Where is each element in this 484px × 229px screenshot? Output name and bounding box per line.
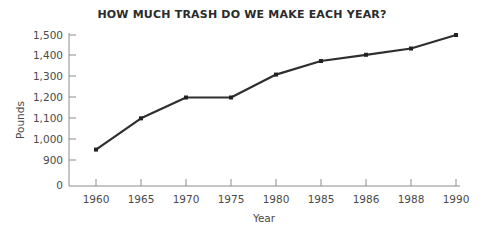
x-axis-title: Year — [252, 212, 276, 224]
y-tick-label-1500: 1,500 — [33, 29, 63, 41]
y-tick-label-900: 900 — [43, 154, 63, 166]
data-point-1980 — [274, 73, 278, 77]
y-axis-title: Pounds — [14, 101, 26, 139]
x-tick-label-1960: 1960 — [83, 193, 110, 205]
series-markers — [94, 33, 458, 152]
y-tick-label-1400: 1,400 — [33, 49, 63, 61]
y-tick-label-1300: 1,300 — [33, 70, 63, 82]
series-line-path — [96, 35, 456, 150]
y-tick-label-1200: 1,200 — [33, 91, 63, 103]
data-point-1986 — [364, 53, 368, 57]
y-tick-label-1000: 1,000 — [33, 133, 63, 145]
x-tick-label-1980: 1980 — [263, 193, 290, 205]
line-chart-plot: 1,500 1,400 1,300 1,200 1,100 1,000 900 … — [0, 0, 484, 229]
x-tick-label-1986: 1986 — [353, 193, 380, 205]
y-tick-label-0: 0 — [56, 179, 63, 191]
y-tick-label-1100: 1,100 — [33, 112, 63, 124]
data-point-1975 — [229, 96, 233, 100]
x-tick-label-1988: 1988 — [398, 193, 425, 205]
chart-container: HOW MUCH TRASH DO WE MAKE EACH YEAR? 1,5… — [0, 0, 484, 229]
x-axis: 1960 1965 1970 1975 1980 1985 1986 1988 … — [69, 179, 469, 224]
y-axis: 1,500 1,400 1,300 1,200 1,100 1,000 900 … — [14, 29, 76, 191]
data-point-1970 — [184, 96, 188, 100]
data-point-1988 — [409, 47, 413, 51]
data-point-1965 — [139, 116, 143, 120]
x-tick-label-1975: 1975 — [218, 193, 245, 205]
x-tick-label-1985: 1985 — [308, 193, 335, 205]
data-series-trash — [94, 33, 458, 152]
x-tick-label-1990: 1990 — [443, 193, 470, 205]
x-tick-label-1965: 1965 — [128, 193, 155, 205]
data-point-1985 — [319, 59, 323, 63]
x-tick-label-1970: 1970 — [173, 193, 200, 205]
data-point-1960 — [94, 148, 98, 152]
data-point-1990 — [454, 33, 458, 37]
